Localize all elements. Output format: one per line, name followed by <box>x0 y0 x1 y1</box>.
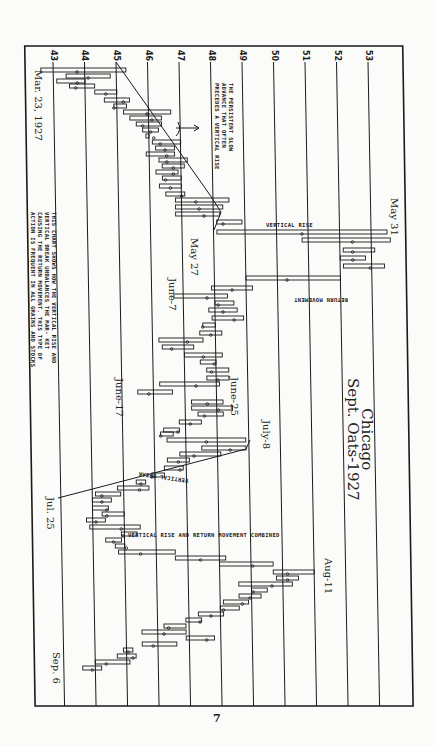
price-bar <box>239 582 293 586</box>
combined-label: VERTICAL RISE AND RETURN MOVEMENT COMBIN… <box>128 532 280 538</box>
tick-53: 53 <box>364 50 373 61</box>
price-bar <box>179 420 201 424</box>
tick-44: 44 <box>80 50 89 61</box>
price-bar <box>217 220 242 224</box>
gridline-50 <box>274 62 286 706</box>
price-bar <box>209 308 237 312</box>
date-label-jul25: Jul. 25 <box>45 497 56 530</box>
price-bar <box>200 331 222 335</box>
chart-note: THIS CHART SHOWS HOW THE VERTICAL RISE A… <box>29 212 57 377</box>
price-bar <box>302 238 390 242</box>
price-bar <box>202 446 246 450</box>
price-bar <box>156 146 175 150</box>
price-bar <box>114 104 127 108</box>
gridline-46 <box>148 62 160 706</box>
price-bar <box>123 110 170 114</box>
price-bar <box>217 230 387 234</box>
price-bar <box>344 264 385 268</box>
date-label-july8: July-8 <box>261 420 272 449</box>
chart-note-line: THIS CHART SHOWS HOW THE VERTICAL RISE <box>51 212 57 349</box>
price-bar <box>223 600 248 604</box>
date-label-may27: May 27 <box>189 238 200 276</box>
date-label-june17: June-17 <box>114 378 125 417</box>
price-bar <box>239 594 261 598</box>
price-bar <box>83 666 102 670</box>
price-bar <box>162 345 194 349</box>
price-bar <box>343 248 375 252</box>
price-bar <box>166 192 185 196</box>
vertical-rise-label: VERTICAL RISE <box>266 222 313 228</box>
price-bar <box>138 390 173 394</box>
date-label-june25: June-25 <box>229 377 240 416</box>
price-bar <box>184 353 222 357</box>
price-bar <box>192 400 224 404</box>
return-movement-label: RETURN MOVEMENT <box>294 297 348 303</box>
page-number: 7 <box>213 712 221 725</box>
gridline-44 <box>85 62 97 706</box>
price-bar <box>167 438 246 442</box>
chart-title: Chicago Sept. Oats-1927 <box>346 378 374 501</box>
tick-47: 47 <box>176 50 185 61</box>
price-bar <box>123 648 132 652</box>
price-bar <box>207 376 229 380</box>
price-bar <box>176 205 223 209</box>
close-marker <box>125 547 128 550</box>
price-bar <box>198 612 223 616</box>
tick-48: 48 <box>207 50 216 61</box>
price-bar <box>146 152 174 156</box>
tick-43: 43 <box>49 50 58 61</box>
title-line-2: Sept. Oats-1927 <box>346 378 360 501</box>
slow-advance-arrow <box>176 122 199 136</box>
price-bar <box>95 660 130 664</box>
price-bar <box>246 276 341 280</box>
close-marker <box>153 137 156 140</box>
price-bar <box>142 642 177 646</box>
price-bar <box>95 90 117 94</box>
price-bar <box>340 256 365 260</box>
date-label-mar23: Mar. 23, 1927 <box>33 70 44 141</box>
price-bar <box>186 636 214 640</box>
price-bar <box>95 492 120 496</box>
price-bar <box>220 606 239 610</box>
date-label-june7: June-7 <box>167 278 178 311</box>
price-bar <box>162 176 181 180</box>
tick-46: 46 <box>144 50 153 61</box>
price-bar <box>117 486 149 490</box>
tick-50: 50 <box>270 50 279 61</box>
gridline-51 <box>305 62 317 706</box>
date-label-aug11: Aug-11 <box>323 558 334 594</box>
price-bar <box>159 184 181 188</box>
price-bar <box>106 538 122 542</box>
gridline-43 <box>53 62 65 706</box>
price-bar <box>69 84 94 88</box>
title-line-1: Chicago <box>360 378 374 501</box>
price-bar <box>159 338 203 342</box>
price-bar <box>119 550 176 554</box>
price-bar <box>220 562 274 566</box>
price-bar <box>161 432 174 436</box>
tick-52: 52 <box>333 50 342 61</box>
price-bar <box>66 74 110 78</box>
price-bar <box>115 544 124 548</box>
price-bar <box>136 480 145 484</box>
price-bar <box>175 198 229 202</box>
slow-advance-annotation: THE PERSISTENT SLOW ADVANCE THAT OFTEN P… <box>213 83 234 173</box>
price-bar <box>90 525 140 529</box>
date-label-may31: May 31 <box>389 198 400 236</box>
gridline-49 <box>242 62 254 706</box>
price-bar <box>277 576 299 580</box>
chart-note-line: AND STOCKS <box>30 331 36 367</box>
price-bar <box>160 382 220 386</box>
tick-45: 45 <box>112 50 121 61</box>
price-bar <box>203 323 216 327</box>
price-bar <box>159 158 187 162</box>
price-bar <box>215 301 234 305</box>
price-bar <box>142 630 186 634</box>
price-bar <box>57 79 85 83</box>
price-bar <box>152 140 180 144</box>
price-bar <box>192 406 233 410</box>
price-bar <box>86 518 105 522</box>
price-bar <box>273 570 314 574</box>
price-bar <box>175 556 225 560</box>
price-bar <box>143 128 159 132</box>
